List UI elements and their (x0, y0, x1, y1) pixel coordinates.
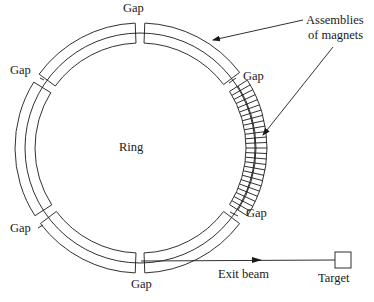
gap-label-upper-left: Gap (10, 63, 31, 77)
ring-inner-arc (55, 43, 136, 86)
target-box (335, 252, 351, 268)
exit-beam-label: Exit beam (218, 267, 269, 281)
ring-label: Ring (119, 140, 144, 154)
gap-label-upper-right: Gap (243, 69, 264, 83)
magnet-segment (246, 153, 267, 154)
ring-outer-arc (145, 224, 240, 273)
ring-inner-arc (144, 211, 224, 252)
exit-beam-arrowhead (252, 257, 262, 263)
assemblies-arrow-lower (263, 47, 333, 135)
ring-inner-arc (56, 211, 136, 252)
ring-inner-arc (35, 93, 52, 205)
ring-outer-arc (39, 23, 135, 74)
gap-pointer (229, 78, 236, 83)
magnet-segment (246, 142, 267, 143)
synchrotron-ring-diagram: Ring Gap Gap Gap Gap Gap Gap Assemblies … (0, 0, 374, 302)
gap-label-lower-left: Gap (10, 221, 31, 235)
assemblies-arrow-upper (213, 20, 303, 40)
gap-pointer (230, 212, 238, 216)
gap-label-bottom: Gap (131, 277, 152, 291)
gap-label-top: Gap (123, 1, 144, 15)
target-label: Target (318, 271, 350, 285)
assemblies-label-line2: of magnets (308, 28, 363, 42)
ring-outer-arc (145, 23, 240, 72)
ring-inner-arc (144, 43, 224, 84)
gap-pointer (40, 78, 44, 80)
magnet-assembly (230, 80, 267, 216)
magnet-segment (230, 205, 248, 216)
assemblies-label-line1: Assemblies (306, 13, 364, 27)
ring-outer-arc (40, 224, 135, 273)
exit-beam-line (141, 260, 335, 261)
magnet-inner-arc (230, 91, 246, 204)
gap-label-lower-right: Gap (246, 206, 267, 220)
